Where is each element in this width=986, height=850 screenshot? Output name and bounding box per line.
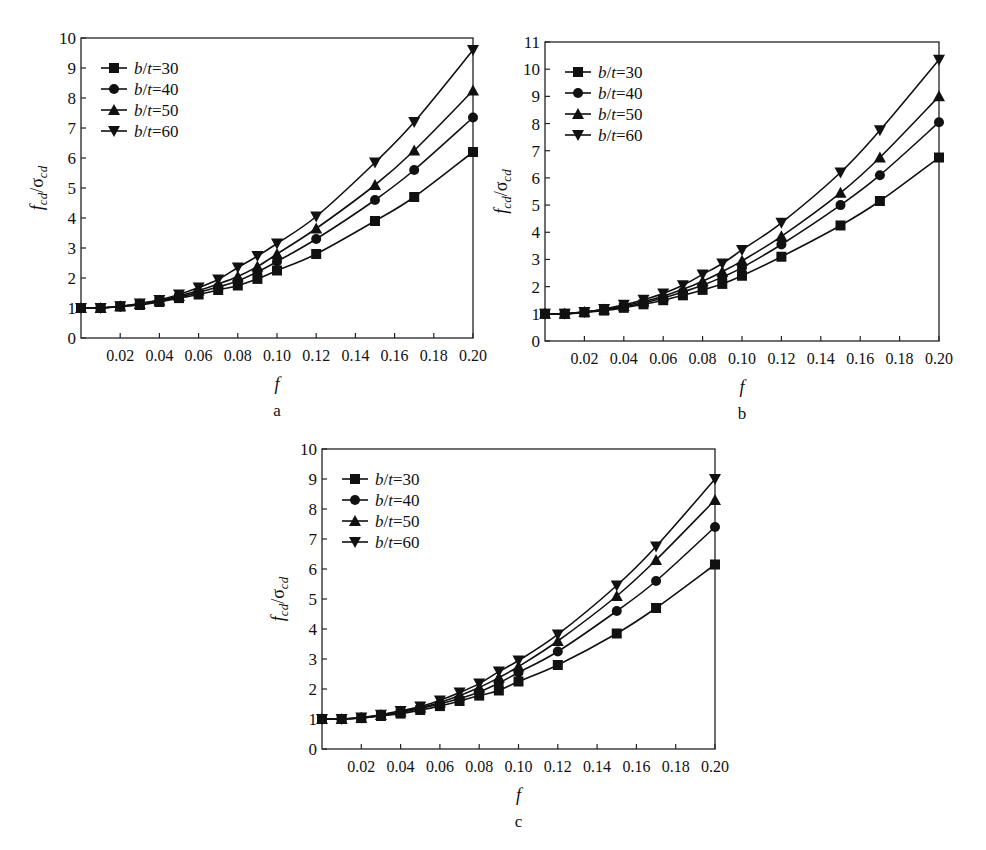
x-tick-label: 0.10 (505, 758, 533, 775)
y-tick-label: 8 (532, 115, 541, 134)
legend-label: b/t=30 (375, 470, 420, 489)
y-tick-label: 6 (309, 560, 318, 579)
data-point-marker (468, 147, 478, 157)
data-point-marker (875, 196, 885, 206)
line-chart-b: 012345678910110.020.040.060.080.100.120.… (490, 0, 986, 420)
x-tick-label: 0.08 (465, 758, 493, 775)
chart-panel-a: 0123456789100.020.040.060.080.100.120.14… (0, 0, 490, 420)
legend-marker (573, 67, 583, 77)
x-tick-label: 0.16 (381, 347, 409, 364)
data-point-marker (775, 218, 787, 229)
y-tick-label: 0 (532, 332, 541, 351)
data-point-marker (514, 677, 524, 687)
x-tick-label: 0.14 (341, 347, 369, 364)
data-point-marker (553, 647, 563, 657)
series-b-t-40 (76, 113, 478, 314)
data-point-marker (271, 239, 283, 250)
panel-sublabel: a (273, 401, 281, 420)
x-tick-label: 0.04 (145, 347, 173, 364)
x-tick-label: 0.14 (583, 758, 611, 775)
legend-marker (350, 495, 360, 505)
data-point-marker (612, 606, 622, 616)
data-point-marker (933, 90, 945, 101)
data-point-marker (409, 192, 419, 202)
y-tick-label: 4 (68, 209, 77, 228)
legend-label: b/t=40 (598, 84, 643, 103)
y-axis-label: fcd/σcd (268, 576, 291, 621)
data-point-marker (409, 165, 419, 175)
data-point-marker (875, 170, 885, 180)
x-tick-label: 0.10 (263, 347, 291, 364)
data-point-marker (310, 223, 322, 234)
x-tick-label: 0.08 (689, 350, 717, 367)
y-tick-label: 0 (68, 329, 77, 348)
data-point-marker (651, 576, 661, 586)
line-chart-c: 0123456789100.020.040.060.080.100.120.14… (260, 425, 740, 845)
legend-item: b/t=50 (101, 101, 179, 120)
data-point-marker (776, 252, 786, 262)
x-tick-label: 0.06 (185, 347, 213, 364)
data-point-marker (251, 261, 263, 272)
legend-item: b/t=50 (565, 105, 643, 124)
legend-label: b/t=30 (598, 63, 643, 82)
y-tick-label: 5 (532, 196, 541, 215)
chart-panel-c: 0123456789100.020.040.060.080.100.120.14… (260, 425, 740, 845)
y-tick-label: 3 (532, 250, 541, 269)
y-tick-label: 1 (532, 305, 541, 324)
data-point-marker (311, 234, 321, 244)
data-point-marker (651, 603, 661, 613)
y-tick-label: 6 (68, 149, 77, 168)
data-point-marker (836, 200, 846, 210)
legend-label: b/t=40 (134, 80, 179, 99)
legend-item: b/t=40 (101, 80, 179, 99)
y-tick-label: 7 (68, 119, 77, 138)
y-tick-label: 1 (68, 299, 77, 318)
legend-label: b/t=60 (134, 122, 179, 141)
y-tick-label: 1 (309, 710, 318, 729)
data-point-marker (370, 216, 380, 226)
legend-label: b/t=50 (134, 101, 179, 120)
data-point-marker (709, 494, 721, 505)
x-tick-label: 0.06 (426, 758, 454, 775)
legend-item: b/t=60 (342, 533, 420, 552)
x-tick-label: 0.02 (347, 758, 375, 775)
data-point-marker (612, 629, 622, 639)
data-point-marker (311, 249, 321, 259)
x-axis-label: f (739, 377, 747, 397)
y-axis-label: fcd/σcd (491, 169, 514, 214)
x-tick-label: 0.20 (701, 758, 729, 775)
panel-sublabel: c (515, 812, 523, 831)
y-tick-label: 5 (309, 590, 318, 609)
x-tick-label: 0.08 (224, 347, 252, 364)
series-b-t-40 (317, 522, 720, 724)
x-tick-label: 0.16 (846, 350, 874, 367)
y-tick-label: 5 (68, 179, 77, 198)
y-tick-label: 9 (532, 87, 541, 106)
data-point-marker (272, 266, 282, 276)
legend-label: b/t=50 (375, 512, 420, 531)
x-tick-label: 0.18 (886, 350, 914, 367)
y-tick-label: 2 (532, 278, 541, 297)
y-tick-label: 7 (309, 530, 318, 549)
legend-marker (350, 474, 360, 484)
y-tick-label: 10 (300, 440, 317, 459)
data-point-marker (736, 255, 748, 266)
legend-item: b/t=40 (565, 84, 643, 103)
data-point-marker (553, 660, 563, 670)
data-point-marker (934, 153, 944, 163)
x-tick-label: 0.16 (622, 758, 650, 775)
y-tick-label: 7 (532, 142, 541, 161)
x-tick-label: 0.04 (387, 758, 415, 775)
y-tick-label: 8 (68, 89, 77, 108)
legend-marker (109, 63, 119, 73)
data-point-marker (710, 560, 720, 570)
x-tick-label: 0.14 (807, 350, 835, 367)
data-point-marker (232, 263, 244, 274)
y-tick-label: 10 (523, 60, 540, 79)
data-point-marker (710, 522, 720, 532)
x-tick-label: 0.12 (302, 347, 330, 364)
y-tick-label: 2 (309, 680, 318, 699)
data-point-marker (212, 275, 224, 286)
y-tick-label: 0 (309, 740, 318, 759)
legend-marker (573, 88, 583, 98)
